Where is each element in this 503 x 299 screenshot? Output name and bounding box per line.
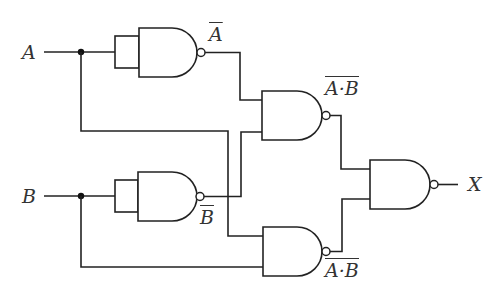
gate1-input-tie: [115, 36, 139, 68]
logic-circuit: [0, 0, 503, 299]
wire-not-b: [204, 132, 262, 197]
wire-not-a: [205, 53, 262, 101]
gate3-label-a: A: [325, 77, 339, 99]
output-x-label: X: [468, 175, 482, 194]
nand-gate-5: [370, 160, 438, 209]
gate4-output-label: A·B: [325, 258, 359, 280]
gate5-body: [370, 160, 430, 209]
gate3-body: [262, 91, 322, 140]
input-a-label: A: [22, 43, 36, 62]
gate4-output-overbar: A·B: [325, 258, 359, 280]
gate4-label-b: B: [345, 259, 359, 281]
nand-gate-3: [262, 91, 330, 140]
nand-gate-2: [115, 172, 204, 221]
gate3-output-label: A·B: [325, 76, 359, 98]
nand-gate-4: [263, 227, 330, 276]
gate4-body: [263, 227, 322, 276]
nand-gate-1: [115, 28, 205, 77]
gate2-body: [138, 172, 197, 221]
gate5-bubble: [430, 181, 438, 189]
gate3-output-overbar: A·B: [325, 76, 359, 98]
wire-gate4-out: [330, 199, 370, 252]
gate3-bubble: [322, 112, 330, 120]
not-b-label: B: [200, 208, 214, 227]
input-b-label: B: [22, 187, 36, 206]
gate4-label-a: A: [325, 259, 339, 281]
not-a-label: A: [209, 25, 223, 44]
gate1-body: [139, 28, 197, 77]
gate4-bubble: [322, 248, 330, 256]
gate1-bubble: [197, 49, 205, 57]
wire-gate3-out: [330, 116, 370, 170]
gate3-label-b: B: [345, 77, 359, 99]
gate2-bubble: [196, 193, 204, 201]
gate2-input-tie: [115, 180, 138, 212]
